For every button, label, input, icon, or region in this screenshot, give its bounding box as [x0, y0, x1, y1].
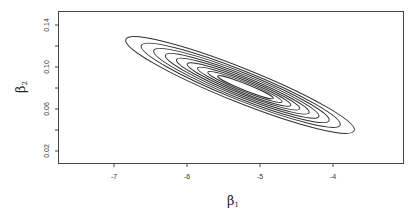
x-tick-label: -7: [111, 173, 117, 180]
y-tick-label: 0.06: [43, 102, 50, 116]
y-tick-label: 0.14: [43, 18, 50, 32]
contour-lines: [119, 24, 360, 147]
x-axis-label: β1: [227, 193, 239, 209]
contour-ellipse: [149, 39, 334, 133]
y-tick-label: 0.02: [43, 144, 50, 158]
contour-ellipse: [161, 45, 323, 127]
contour-ellipse: [119, 24, 360, 147]
x-tick-label: -5: [257, 173, 263, 180]
contour-ellipse: [184, 57, 302, 116]
contour-ellipse: [136, 32, 346, 139]
y-tick-label: 0.10: [43, 60, 50, 74]
contour-ellipse: [173, 51, 312, 121]
x-tick-label: -4: [330, 173, 336, 180]
x-tick-label: -6: [184, 173, 190, 180]
y-axis-label: β2: [13, 81, 29, 93]
y-axis: [55, 25, 59, 151]
x-axis: [114, 164, 333, 168]
contour-plot: -7 -6 -5 -4 0.14 0.10 0.06 0.02 β1 β2: [0, 0, 420, 221]
